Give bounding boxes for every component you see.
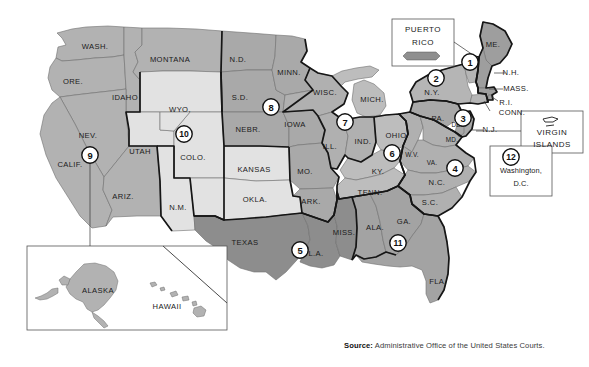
state-label-nj: N.J. <box>482 125 497 134</box>
state-label-ind: IND. <box>355 137 372 146</box>
circuit-badge-2[interactable]: 2 <box>428 70 444 86</box>
state-label-sd: S.D. <box>232 93 248 102</box>
puerto-rico-label-1: PUERTO <box>405 25 441 34</box>
circuit-badge-10[interactable]: 10 <box>176 126 192 142</box>
dc-label-1: Washington, <box>500 166 542 175</box>
state-label-nev: NEV. <box>79 131 98 140</box>
state-label-va: VA. <box>427 159 437 166</box>
state-label-iowa: IOWA <box>284 120 306 129</box>
source-caption: Source: Administrative Office of the Uni… <box>344 341 545 350</box>
state-label-kansas: KANSAS <box>237 165 270 174</box>
judicial-circuits-map: .st{stroke:#6f6f6f;stroke-width:0.6;stro… <box>0 0 589 367</box>
circuit-badge-number-1: 1 <box>467 57 472 68</box>
state-label-ny: N.Y. <box>424 88 439 97</box>
circuit-badge-1[interactable]: 1 <box>462 54 478 70</box>
dc-label-2: D.C. <box>513 179 528 188</box>
circuit-badge-number-2: 2 <box>433 73 438 84</box>
state-label-nc: N.C. <box>429 178 446 187</box>
circuit-badge-11[interactable]: 11 <box>390 235 406 251</box>
circuit-badge-number-4: 4 <box>452 163 458 174</box>
state-label-conn: CONN. <box>499 108 525 117</box>
state-label-montana: MONTANA <box>150 55 191 64</box>
state-label-ore: ORE. <box>63 77 83 86</box>
circuit-badge-number-5: 5 <box>297 245 302 256</box>
state-label-okla: OKLA. <box>243 195 267 204</box>
state-label-ri: R.I. <box>499 98 512 107</box>
circuit-badge-number-9: 9 <box>87 150 92 161</box>
state-label-wash: WASH. <box>82 42 109 51</box>
state-label-alaska: ALASKA <box>82 286 114 295</box>
state-label-tenn: TENN. <box>358 188 383 197</box>
circuit-badge-number-7: 7 <box>342 117 347 128</box>
state-label-me: ME. <box>486 40 501 49</box>
state-label-ariz: ARIZ. <box>112 192 133 201</box>
state-label-ill: ILL. <box>323 142 337 151</box>
circuit-badge-number-11: 11 <box>393 238 402 248</box>
state-label-calif: CALIF. <box>57 160 82 169</box>
state-label-hawaii: HAWAII <box>153 302 182 311</box>
state-label-nd: N.D. <box>230 55 247 64</box>
state-label-colo: COLO. <box>180 153 206 162</box>
state-label-wv: W.V. <box>405 151 419 158</box>
state-label-ga: GA. <box>397 217 411 226</box>
leader-labels: N.H.MASS.R.I.CONN.N.J. <box>472 68 529 134</box>
circuit-badge-number-6: 6 <box>389 148 394 159</box>
circuit-badge-4[interactable]: 4 <box>447 160 463 176</box>
state-label-minn: MINN. <box>277 68 301 77</box>
circuit-badge-8[interactable]: 8 <box>263 99 279 115</box>
virgin-islands-label-2: ISLANDS <box>533 140 571 149</box>
circuit-badge-7[interactable]: 7 <box>337 114 353 130</box>
state-label-miss: MISS. <box>333 228 356 237</box>
state-label-ark: ARK. <box>301 197 320 206</box>
state-label-nm: N.M. <box>169 203 187 212</box>
state-label-utah: UTAH <box>129 147 151 156</box>
state-label-wisc: WISC. <box>313 88 337 97</box>
circuit-badge-9[interactable]: 9 <box>82 147 98 163</box>
state-label-idaho: IDAHO <box>112 93 138 102</box>
circuit-badge-5[interactable]: 5 <box>292 242 308 258</box>
source-text: Administrative Office of the United Stat… <box>373 341 545 350</box>
circuit-badge-number-10: 10 <box>179 129 189 139</box>
state-label-sc: S.C. <box>422 198 438 207</box>
box-labels: PUERTORICOVIRGINISLANDSWashington,D.C. <box>405 25 571 188</box>
circuit-badge-12[interactable]: 12 <box>503 149 519 165</box>
state-label-nh: N.H. <box>503 68 520 77</box>
state-label-nebr: NEBR. <box>235 125 260 134</box>
circuit-number-badges: 123456789101112 <box>82 54 519 258</box>
state-label-md: MD. <box>446 136 458 143</box>
circuit-badge-3[interactable]: 3 <box>455 110 471 126</box>
state-label-ala: ALA. <box>366 223 384 232</box>
state-label-mo: MO. <box>297 167 313 176</box>
state-label-ky: KY. <box>372 167 384 176</box>
state-label-fla: FLA. <box>429 277 447 286</box>
virgin-islands-label-1: VIRGIN <box>537 128 568 137</box>
map-text-layer: WASH.ORE.IDAHOMONTANAN.D.S.D.MINN.WISC.M… <box>0 0 589 367</box>
state-label-texas: TEXAS <box>232 238 259 247</box>
source-prefix: Source: <box>344 341 373 350</box>
state-label-la: L.A. <box>308 249 323 258</box>
circuit-badge-number-12: 12 <box>506 152 516 162</box>
state-label-mich: MICH. <box>360 95 384 104</box>
circuit-badge-number-8: 8 <box>268 102 273 113</box>
puerto-rico-label-2: RICO <box>412 38 434 47</box>
leader-line-conn <box>484 101 490 111</box>
circuit-badge-6[interactable]: 6 <box>384 145 400 161</box>
state-label-wyo: WYO. <box>169 105 191 114</box>
state-label-mass: MASS. <box>503 84 529 93</box>
circuit-badge-number-3: 3 <box>460 113 465 124</box>
leader-line-ri <box>492 97 498 101</box>
state-label-pa: PA. <box>432 114 445 123</box>
state-label-ohio: OHIO <box>385 131 406 140</box>
